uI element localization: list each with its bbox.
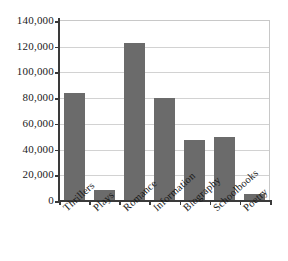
gridline <box>59 72 269 73</box>
y-axis-tick-label: 0 <box>48 195 54 206</box>
gridline <box>59 47 269 48</box>
bar <box>124 43 145 200</box>
x-axis-tick <box>59 200 61 205</box>
y-axis-line <box>58 18 60 202</box>
y-axis-tick-label: 120,000 <box>17 41 54 52</box>
y-axis-tick-label: 40,000 <box>23 144 54 155</box>
y-axis-tick-label: 60,000 <box>23 118 54 129</box>
plot-area <box>59 20 270 200</box>
bar-chart: 020,00040,00060,00080,000100,000120,0001… <box>0 0 288 261</box>
y-axis-tick-label: 20,000 <box>23 169 54 180</box>
y-axis-tick-label: 80,000 <box>23 92 54 103</box>
x-axis-tick <box>270 200 272 205</box>
y-axis-tick-label: 100,000 <box>17 66 54 77</box>
y-axis-tick-label: 140,000 <box>17 15 54 26</box>
bar <box>64 93 85 200</box>
